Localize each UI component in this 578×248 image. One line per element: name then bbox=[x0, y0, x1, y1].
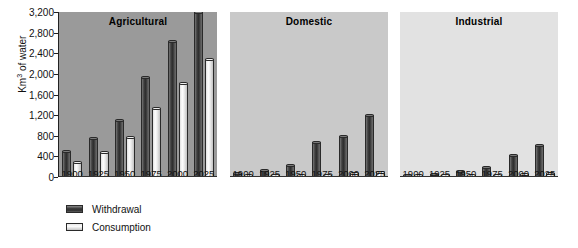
bar-group-1950 bbox=[286, 12, 306, 177]
bar-cap bbox=[100, 151, 109, 154]
bar-cap bbox=[312, 141, 321, 144]
bar-group-2025 bbox=[365, 12, 385, 177]
plot-area-domestic bbox=[230, 12, 388, 177]
bar-cap bbox=[126, 136, 135, 139]
x-axis-tick-1950: 1950 bbox=[114, 168, 135, 179]
bar-consumption-2025 bbox=[205, 59, 214, 177]
bar-cap bbox=[89, 137, 98, 140]
bar-group-2000 bbox=[339, 12, 359, 177]
bar-group-1925 bbox=[89, 12, 109, 177]
bar-cap bbox=[141, 76, 150, 79]
x-axis-tick-1950: 1950 bbox=[455, 168, 476, 179]
legend-label-consumption: Consumption bbox=[92, 222, 151, 233]
bar-cap bbox=[205, 58, 214, 61]
legend-swatch-withdrawal bbox=[66, 205, 83, 213]
x-axis-tick-1975: 1975 bbox=[312, 168, 333, 179]
x-axis-tick-2025: 2025 bbox=[364, 168, 385, 179]
x-axis-baseline bbox=[400, 176, 558, 177]
x-axis-tick-2000: 2000 bbox=[167, 168, 188, 179]
y-axis-tickmark bbox=[54, 177, 58, 178]
bar-cap bbox=[179, 82, 188, 85]
panel-industrial: Industrial bbox=[400, 12, 558, 177]
bar-cap bbox=[152, 107, 161, 110]
bar-group-1925 bbox=[260, 12, 280, 177]
bar-group-1925 bbox=[430, 12, 450, 177]
x-axis-tick-1900: 1900 bbox=[403, 168, 424, 179]
panel-title-industrial: Industrial bbox=[400, 16, 558, 27]
chart-legend: WithdrawalConsumption bbox=[66, 200, 151, 236]
y-axis-tick-1200: 1,200 bbox=[29, 110, 54, 121]
bar-cap bbox=[115, 119, 124, 122]
bar-cap bbox=[286, 164, 295, 167]
bar-withdrawal-2000 bbox=[168, 41, 177, 177]
bar-cap bbox=[365, 114, 374, 117]
bar-group-1950 bbox=[456, 12, 476, 177]
x-axis-tick-2000: 2000 bbox=[508, 168, 529, 179]
bar-cap bbox=[535, 144, 544, 147]
panel-agricultural: Agricultural bbox=[59, 12, 217, 177]
x-axis-tick-2025: 2025 bbox=[534, 168, 555, 179]
bar-group-1975 bbox=[482, 12, 502, 177]
x-axis-tick-1950: 1950 bbox=[285, 168, 306, 179]
x-axis-tick-1900: 1900 bbox=[233, 168, 254, 179]
bar-group-1950 bbox=[115, 12, 135, 177]
water-use-bar-chart-figure: Km3 of water 04008001,2001,6002,0002,400… bbox=[0, 0, 578, 248]
y-axis-tick-3200: 3,200 bbox=[29, 7, 54, 18]
bar-cap bbox=[168, 40, 177, 43]
bar-group-2025 bbox=[194, 12, 214, 177]
legend-label-withdrawal: Withdrawal bbox=[92, 204, 141, 215]
y-axis-tick-2800: 2,800 bbox=[29, 27, 54, 38]
legend-swatch-consumption bbox=[66, 223, 83, 231]
y-axis-tick-400: 400 bbox=[37, 151, 54, 162]
bar-group-1975 bbox=[141, 12, 161, 177]
x-axis-baseline bbox=[230, 176, 388, 177]
y-axis-tick-labels: 04008001,2001,6002,0002,4002,8003,200 bbox=[0, 0, 58, 248]
bar-cap bbox=[509, 154, 518, 157]
x-axis-tick-1925: 1925 bbox=[259, 168, 280, 179]
x-axis-baseline bbox=[59, 176, 217, 177]
bar-consumption-2000 bbox=[179, 83, 188, 177]
x-axis-tick-1925: 1925 bbox=[88, 168, 109, 179]
bar-group-1900 bbox=[62, 12, 82, 177]
bar-withdrawal-1975 bbox=[141, 77, 150, 177]
x-axis-tick-1925: 1925 bbox=[429, 168, 450, 179]
bar-group-1975 bbox=[312, 12, 332, 177]
bar-group-2025 bbox=[535, 12, 555, 177]
plot-area-agricultural bbox=[59, 12, 217, 177]
bar-group-2000 bbox=[168, 12, 188, 177]
y-axis-tick-2000: 2,000 bbox=[29, 68, 54, 79]
y-axis-tick-1600: 1,600 bbox=[29, 89, 54, 100]
panel-title-agricultural: Agricultural bbox=[59, 16, 217, 27]
bar-cap bbox=[62, 150, 71, 153]
x-axis-tick-2025: 2025 bbox=[193, 168, 214, 179]
plot-area-industrial bbox=[400, 12, 558, 177]
panel-domestic: Domestic bbox=[230, 12, 388, 177]
bar-group-1900 bbox=[403, 12, 423, 177]
x-axis-tick-1900: 1900 bbox=[62, 168, 83, 179]
bar-cap bbox=[73, 161, 82, 164]
bar-group-2000 bbox=[509, 12, 529, 177]
bar-cap bbox=[339, 135, 348, 138]
legend-item-consumption: Consumption bbox=[66, 218, 151, 236]
y-axis-tick-800: 800 bbox=[37, 130, 54, 141]
bar-cap bbox=[194, 12, 203, 14]
x-axis-tick-1975: 1975 bbox=[482, 168, 503, 179]
y-axis-tick-2400: 2,400 bbox=[29, 48, 54, 59]
panel-title-domestic: Domestic bbox=[230, 16, 388, 27]
bar-withdrawal-2025 bbox=[194, 12, 203, 177]
bar-consumption-1975 bbox=[152, 108, 161, 177]
legend-item-withdrawal: Withdrawal bbox=[66, 200, 151, 218]
x-axis-tick-2000: 2000 bbox=[338, 168, 359, 179]
x-axis-tick-1975: 1975 bbox=[141, 168, 162, 179]
bar-group-1900 bbox=[233, 12, 253, 177]
